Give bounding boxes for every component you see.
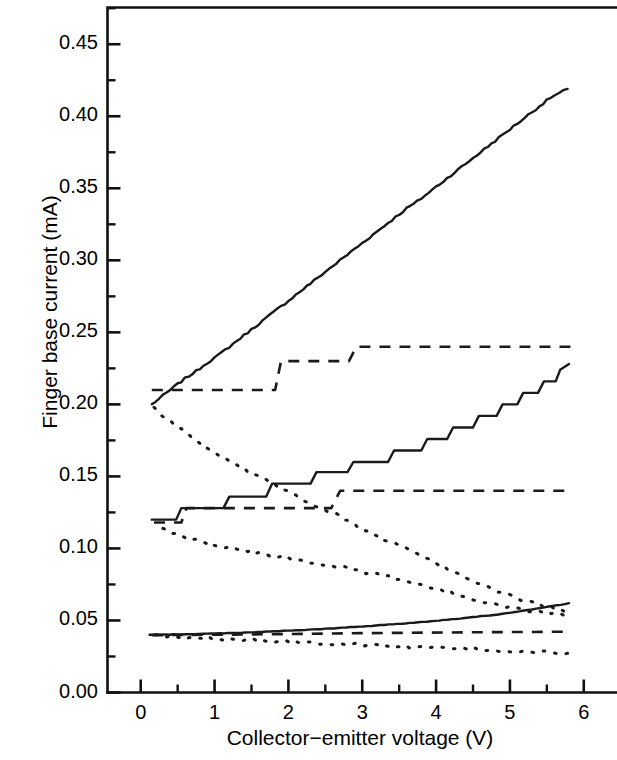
series-middle-dotted (163, 528, 568, 615)
y-tick-label: 0.15 (28, 463, 98, 486)
y-axis-title: Finger base current (mA) (38, 102, 62, 522)
y-tick-label: 0.35 (28, 175, 98, 198)
y-tick-label: 0.30 (28, 247, 98, 270)
y-tick-label: 0.25 (28, 319, 98, 342)
x-tick-label: 6 (559, 701, 609, 724)
y-tick-label: 0.05 (28, 607, 98, 630)
y-tick-label: 0.45 (28, 31, 98, 54)
series-middle-solid (152, 364, 569, 520)
chart-figure: Finger base current (mA) Collector−emitt… (0, 0, 617, 760)
y-tick-label: 0.40 (28, 103, 98, 126)
x-tick-label: 1 (190, 701, 240, 724)
data-series-layer (150, 89, 571, 655)
y-tick-label: 0.10 (28, 535, 98, 558)
x-tick-label: 0 (116, 701, 166, 724)
x-tick-label: 3 (337, 701, 387, 724)
x-axis-title: Collector−emitter voltage (V) (110, 726, 610, 750)
series-upper-solid (152, 89, 568, 404)
x-tick-label: 5 (485, 701, 535, 724)
series-lower-dotted (156, 635, 568, 655)
x-tick-label: 2 (263, 701, 313, 724)
y-axis-ticks (108, 8, 121, 692)
y-tick-label: 0.00 (28, 680, 98, 703)
series-middle-dashed (154, 491, 570, 523)
y-tick-label: 0.20 (28, 391, 98, 414)
axis-spines (108, 8, 617, 693)
x-axis-ticks (141, 680, 584, 693)
series-upper-dashed (152, 347, 571, 390)
x-tick-label: 4 (411, 701, 461, 724)
